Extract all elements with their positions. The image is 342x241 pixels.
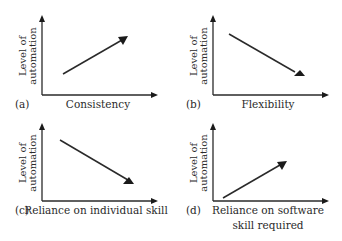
y-axis-arrow-icon — [39, 123, 45, 130]
x-axis-label: Flexibility — [241, 98, 294, 110]
x-axis-label-line1: Reliance on software — [212, 204, 324, 216]
panel-tag: (d) — [186, 204, 201, 216]
trend-line-increasing — [223, 165, 280, 198]
trend-line-increasing — [63, 40, 122, 74]
panel-c: Level of automation (c) Reliance on indi… — [15, 123, 168, 216]
y-axis-arrow-icon — [39, 15, 45, 22]
y-axis-arrow-icon — [210, 123, 216, 130]
x-axis-label: Consistency — [66, 98, 130, 110]
trend-line-decreasing — [60, 140, 128, 180]
figure-canvas: Level of automation (a) Consistency Leve… — [0, 0, 342, 241]
y-axis-arrow-icon — [210, 15, 216, 22]
panel-a: Level of automation (a) Consistency — [15, 15, 158, 110]
panel-tag: (b) — [186, 98, 201, 110]
trend-arrowhead-icon — [294, 70, 305, 76]
y-axis-label-line2: automation — [27, 27, 38, 85]
x-axis-label-line2: skill required — [232, 219, 303, 231]
panel-tag: (a) — [15, 98, 29, 110]
panel-d: Level of automation (d) Reliance on soft… — [186, 123, 329, 231]
y-axis-label-line2: automation — [198, 134, 209, 192]
trend-line-decreasing — [229, 34, 295, 72]
trend-arrowhead-icon — [118, 36, 128, 45]
x-axis-label: Reliance on individual skill — [24, 204, 168, 216]
x-axis-arrow-icon — [151, 92, 158, 98]
y-axis-label-line2: automation — [198, 27, 209, 85]
panel-b: Level of automation (b) Flexibility — [186, 15, 329, 110]
x-axis-arrow-icon — [322, 92, 329, 98]
y-axis-label-line2: automation — [27, 134, 38, 192]
